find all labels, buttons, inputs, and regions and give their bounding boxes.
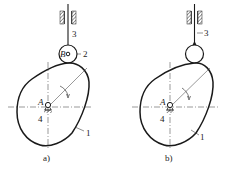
caption-b: b) (165, 153, 173, 163)
cam-profile (17, 63, 89, 146)
roller-pin (66, 52, 70, 56)
label-roller: 2 (83, 49, 88, 59)
label-cam: 1 (86, 128, 91, 138)
figure-a: 3 2 B A 4 1 a) (8, 4, 92, 163)
label-cam: 1 (200, 132, 205, 142)
roller (186, 45, 204, 63)
label-roller-center: B (60, 49, 66, 59)
label-pivot: A (159, 97, 166, 107)
pivot-a (44, 102, 52, 113)
label-frame: 4 (160, 114, 165, 124)
cam-mechanism-diagram: 3 2 B A 4 1 a) 3 (0, 0, 225, 172)
caption-a: a) (43, 153, 50, 163)
figure-b: 3 A 4 1 b) (132, 4, 218, 163)
label-pivot: A (37, 97, 44, 107)
label-follower: 3 (204, 28, 209, 38)
label-frame: 4 (38, 114, 43, 124)
label-follower: 3 (72, 29, 77, 39)
pivot-a (166, 102, 174, 113)
